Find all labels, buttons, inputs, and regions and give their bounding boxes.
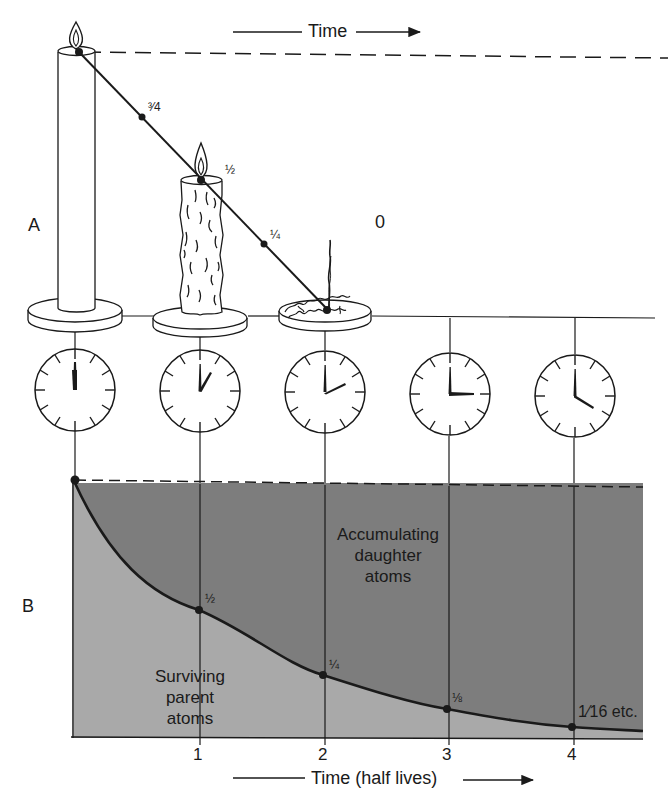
daughter-atoms-label: Accumulating daughter atoms (322, 524, 454, 587)
flame-icon (70, 22, 83, 49)
point-three-quarters (139, 114, 146, 121)
point-half (197, 176, 205, 184)
candle-burnt-out-icon (279, 240, 371, 331)
fraction-three-quarters: ³⁄4 (148, 100, 161, 114)
time-label: Time (308, 21, 347, 42)
x-tick-1: 1 (193, 745, 202, 765)
candle-full-icon (28, 22, 122, 332)
decay-diagram (0, 0, 672, 808)
panel-b-label: B (22, 596, 34, 617)
point-label-quarter: ¼ (329, 658, 339, 672)
point-full (75, 48, 83, 56)
x-tick-4: 4 (567, 745, 576, 765)
x-axis-label: Time (half lives) (311, 768, 437, 789)
point-label-half: ½ (205, 592, 215, 606)
clock-2-icon (285, 351, 365, 433)
point-zero (323, 306, 331, 314)
panel-a-label: A (28, 215, 40, 236)
parent-atoms-label: Surviving parent atoms (140, 666, 240, 729)
clock-4-icon (535, 355, 615, 437)
point-label-sixteenth: 1⁄16 etc. (578, 703, 638, 721)
fraction-half: ½ (225, 163, 235, 177)
x-tick-2: 2 (318, 745, 327, 765)
fraction-quarter: ¼ (270, 228, 280, 242)
clock-12-icon (35, 349, 115, 431)
baseline (372, 316, 655, 318)
panel-b-chart (71, 476, 644, 781)
point-label-eighth: ⅛ (452, 691, 462, 705)
x-tick-3: 3 (442, 745, 451, 765)
point-quarter (261, 241, 268, 248)
clock-1-icon (160, 350, 240, 432)
initial-level-dashed-line (85, 52, 668, 58)
panel-a (28, 22, 668, 337)
clock-3-icon (410, 353, 490, 435)
zero-label: 0 (375, 212, 385, 233)
